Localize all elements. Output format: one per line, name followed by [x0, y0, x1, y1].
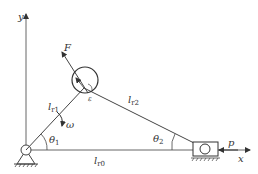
theta1-label: θ1 [49, 134, 60, 147]
slider-block [191, 142, 220, 161]
theta2-arc [172, 134, 175, 150]
ground-pivot [14, 145, 38, 167]
epsilon-arc [88, 84, 92, 90]
x-axis-label: x [238, 153, 244, 164]
omega-label: ω [66, 119, 74, 130]
omega-arrow [57, 112, 62, 126]
load-label: p [228, 137, 235, 148]
link-r2 [84, 88, 200, 146]
base-label: lr0 [94, 155, 105, 168]
theta1-arc [41, 134, 47, 150]
y-axis-label: y [17, 11, 24, 22]
epsilon-label: ε [88, 95, 92, 103]
link-r2-label: lr2 [128, 94, 139, 107]
slider-crank-diagram: y x F ε lr1 lr2 lr0 ω θ1 θ2 [0, 0, 258, 174]
y-axis: y [17, 11, 26, 150]
force-label: F [63, 42, 72, 53]
theta2-label: θ2 [153, 133, 164, 146]
